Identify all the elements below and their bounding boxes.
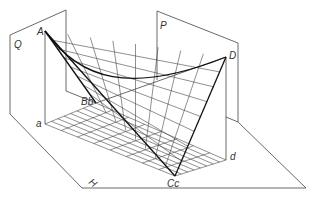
plane-h-outline: [10, 114, 306, 188]
label-point-d: D: [229, 51, 236, 61]
surface-grid: [51, 34, 219, 167]
label-plane-p: P: [160, 21, 167, 31]
label-point-bb: Bb: [81, 97, 93, 107]
edge-dc: [175, 57, 226, 176]
floor-grid-line: [175, 160, 226, 176]
label-plane-q: Q: [14, 40, 22, 50]
label-point-a: A: [37, 27, 44, 37]
diagram-canvas: [0, 0, 316, 197]
plane-p-base: [226, 117, 238, 122]
label-point-cc: Cc: [167, 179, 179, 189]
label-point-d-lower: d: [230, 152, 236, 162]
label-point-a-lower: a: [36, 119, 42, 129]
